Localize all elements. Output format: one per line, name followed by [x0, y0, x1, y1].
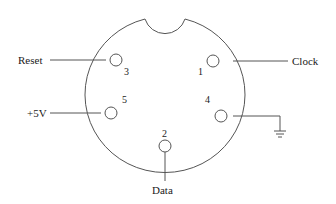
reset-label: Reset [18, 54, 42, 66]
pin-1: 1 Clock [198, 55, 319, 77]
clock-label: Clock [292, 55, 319, 67]
data-label: Data [152, 184, 173, 196]
din-connector-diagram: 3 Reset 1 Clock 5 +5V 4 2 Data [0, 0, 336, 204]
pin-2-socket [159, 140, 171, 152]
pin-4: 4 [205, 94, 286, 137]
pin-4-socket [215, 110, 227, 122]
ground-symbol-icon [274, 131, 286, 137]
pin-1-socket [207, 55, 219, 67]
vcc-label: +5V [27, 107, 47, 119]
pin-3: 3 Reset [18, 54, 129, 77]
pin-5-socket [105, 107, 117, 119]
pin-3-socket [110, 54, 122, 66]
connector-outline [85, 19, 245, 173]
pin-3-number: 3 [124, 66, 129, 77]
pin-2-number: 2 [162, 128, 167, 139]
pin-2: 2 Data [152, 128, 173, 196]
ground-lead-line [233, 116, 280, 131]
pin-1-number: 1 [198, 66, 203, 77]
pin-4-number: 4 [205, 94, 210, 105]
pin-5-number: 5 [122, 94, 127, 105]
pin-5: 5 +5V [27, 94, 127, 119]
